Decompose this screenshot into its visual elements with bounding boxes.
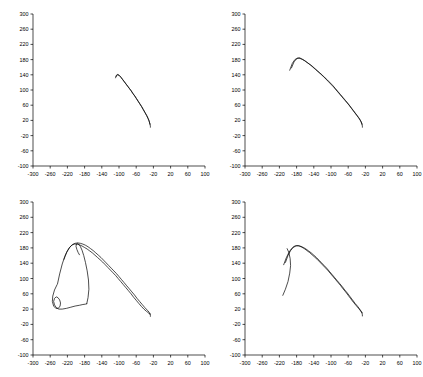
series-line <box>283 249 291 296</box>
series-line <box>291 58 362 124</box>
x-tick-label: -140 <box>96 171 107 177</box>
x-tick-label: -300 <box>28 171 39 177</box>
y-tick-label: 140 <box>20 260 29 266</box>
x-tick-label: -100 <box>114 171 125 177</box>
series-line <box>52 285 86 309</box>
panel-bottom-left-svg: -300-260-220-180-140-100-60-202060100-10… <box>0 188 211 377</box>
y-tick-label: 220 <box>20 41 29 47</box>
x-tick-label: -300 <box>28 360 39 366</box>
series-line <box>116 75 150 124</box>
panel-bottom-right-svg: -300-260-220-180-140-100-60-202060100-10… <box>211 188 423 377</box>
plot-grid: -300-260-220-180-140-100-60-202060100-10… <box>0 0 423 377</box>
panel-top-right-svg: -300-260-220-180-140-100-60-202060100-10… <box>211 0 423 188</box>
x-tick-label: -220 <box>274 171 285 177</box>
y-tick-label: 140 <box>232 260 241 266</box>
y-tick-label: 220 <box>232 230 241 236</box>
y-tick-label: 140 <box>20 72 29 78</box>
x-tick-label: -300 <box>240 171 251 177</box>
y-tick-label: 20 <box>23 306 29 312</box>
x-tick-label: -260 <box>45 360 56 366</box>
y-tick-label: 300 <box>20 11 29 17</box>
y-tick-label: -20 <box>21 133 29 139</box>
y-tick-label: 100 <box>20 87 29 93</box>
x-tick-label: -220 <box>62 171 73 177</box>
y-tick-label: 180 <box>232 57 241 63</box>
x-tick-label: -100 <box>326 360 337 366</box>
x-tick-label: -220 <box>274 360 285 366</box>
y-tick-label: 180 <box>20 245 29 251</box>
y-tick-label: -60 <box>21 148 29 154</box>
x-tick-label: -20 <box>362 171 370 177</box>
y-tick-label: 260 <box>20 214 29 220</box>
x-tick-label: -60 <box>132 360 140 366</box>
series-line <box>58 243 150 314</box>
x-tick-label: -140 <box>308 360 319 366</box>
x-tick-label: -260 <box>257 171 268 177</box>
y-tick-label: 20 <box>235 306 241 312</box>
series-line <box>285 246 362 313</box>
x-tick-label: 20 <box>380 360 386 366</box>
y-tick-label: 100 <box>232 276 241 282</box>
x-tick-label: -60 <box>132 171 140 177</box>
y-tick-label: 60 <box>235 102 241 108</box>
y-tick-label: 220 <box>232 41 241 47</box>
panel-bottom-right: -300-260-220-180-140-100-60-202060100-10… <box>211 188 423 377</box>
series-line <box>116 74 150 124</box>
y-tick-label: 180 <box>232 245 241 251</box>
y-tick-label: 20 <box>235 117 241 123</box>
x-tick-label: 100 <box>413 171 422 177</box>
x-tick-label: -100 <box>326 171 337 177</box>
y-tick-label: -100 <box>18 163 29 169</box>
y-tick-label: 260 <box>232 26 241 32</box>
y-tick-label: 300 <box>232 199 241 205</box>
x-tick-label: -180 <box>79 360 90 366</box>
y-tick-label: -20 <box>233 321 241 327</box>
x-tick-label: -180 <box>291 171 302 177</box>
y-tick-label: -100 <box>230 352 241 358</box>
x-tick-label: -60 <box>344 360 352 366</box>
x-tick-label: 60 <box>397 171 403 177</box>
x-tick-label: 100 <box>413 360 422 366</box>
x-tick-label: -260 <box>257 360 268 366</box>
x-tick-label: -180 <box>79 171 90 177</box>
series-line <box>76 243 89 303</box>
series-line <box>64 244 150 314</box>
y-tick-label: 60 <box>235 291 241 297</box>
x-tick-label: -20 <box>150 171 158 177</box>
x-tick-label: -260 <box>45 171 56 177</box>
x-tick-label: 100 <box>201 171 210 177</box>
y-tick-label: 60 <box>23 291 29 297</box>
x-tick-label: -140 <box>308 171 319 177</box>
y-tick-label: 260 <box>20 26 29 32</box>
x-tick-label: 20 <box>380 171 386 177</box>
x-tick-label: 20 <box>168 171 174 177</box>
x-tick-label: 100 <box>201 360 210 366</box>
y-tick-label: -20 <box>21 321 29 327</box>
y-tick-label: 300 <box>232 11 241 17</box>
x-tick-label: -20 <box>362 360 370 366</box>
series-line <box>290 58 362 124</box>
y-tick-label: 100 <box>20 276 29 282</box>
y-tick-label: 180 <box>20 57 29 63</box>
x-tick-label: 20 <box>168 360 174 366</box>
y-tick-label: 260 <box>232 214 241 220</box>
y-tick-label: -20 <box>233 133 241 139</box>
y-tick-label: 100 <box>232 87 241 93</box>
y-tick-label: -60 <box>21 337 29 343</box>
y-tick-label: -100 <box>230 163 241 169</box>
x-tick-label: -220 <box>62 360 73 366</box>
y-tick-label: 20 <box>23 117 29 123</box>
y-tick-label: 60 <box>23 102 29 108</box>
panel-top-left-svg: -300-260-220-180-140-100-60-202060100-10… <box>0 0 211 188</box>
x-tick-label: 60 <box>185 360 191 366</box>
x-tick-label: 60 <box>397 360 403 366</box>
series-line <box>284 246 362 313</box>
y-tick-label: 300 <box>20 199 29 205</box>
panel-bottom-left: -300-260-220-180-140-100-60-202060100-10… <box>0 188 211 377</box>
x-tick-label: -180 <box>291 360 302 366</box>
x-tick-label: -140 <box>96 360 107 366</box>
x-tick-label: -20 <box>150 360 158 366</box>
y-tick-label: -60 <box>233 337 241 343</box>
panel-top-left: -300-260-220-180-140-100-60-202060100-10… <box>0 0 211 188</box>
x-tick-label: -300 <box>240 360 251 366</box>
